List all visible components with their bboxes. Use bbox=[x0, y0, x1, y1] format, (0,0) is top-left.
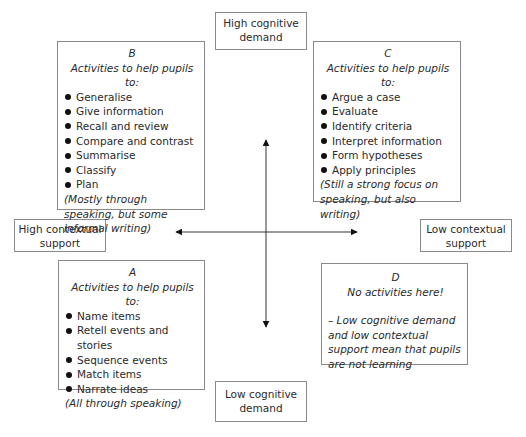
low-cognitive-demand-label: Low cognitive demand bbox=[215, 381, 307, 422]
list-item: Interpret information bbox=[320, 134, 456, 149]
list-item: Evaluate bbox=[320, 104, 456, 119]
list-item: Sequence events bbox=[65, 353, 200, 368]
quadrant-letter: D bbox=[328, 270, 463, 285]
quadrant-letter: A bbox=[65, 265, 200, 280]
activity-list: Name items Retell events and stories Seq… bbox=[65, 309, 200, 397]
high-cognitive-demand-label: High cognitive demand bbox=[215, 12, 307, 50]
quadrant-a: A Activities to help pupils to: Name ite… bbox=[58, 260, 205, 390]
quadrant-d: D No activities here! – Low cognitive de… bbox=[321, 263, 468, 365]
quadrant-note: – Low cognitive demand and low contextua… bbox=[328, 313, 463, 371]
quadrant-letter: C bbox=[320, 46, 456, 61]
list-item: Give information bbox=[64, 104, 200, 119]
quadrant-note: (Still a strong focus on speaking, but a… bbox=[320, 177, 456, 221]
list-item: Narrate ideas bbox=[65, 382, 200, 397]
quadrant-letter: B bbox=[64, 46, 200, 61]
list-item: Recall and review bbox=[64, 119, 200, 134]
list-item: Plan bbox=[64, 177, 200, 192]
list-item: Form hypotheses bbox=[320, 148, 456, 163]
quadrant-c: C Activities to help pupils to: Argue a … bbox=[313, 41, 461, 202]
list-item: Retell events and stories bbox=[65, 323, 200, 352]
list-item: Summarise bbox=[64, 148, 200, 163]
activity-list: Generalise Give information Recall and r… bbox=[64, 90, 200, 192]
low-contextual-support-label: Low contextual support bbox=[420, 219, 512, 252]
list-item: Apply principles bbox=[320, 163, 456, 178]
list-item: Identify criteria bbox=[320, 119, 456, 134]
activity-list: Argue a case Evaluate Identify criteria … bbox=[320, 90, 456, 178]
quadrant-note: (Mostly through speaking, but some infor… bbox=[64, 192, 200, 236]
quadrant-note: (All through speaking) bbox=[65, 396, 200, 411]
quadrant-heading: Activities to help pupils to: bbox=[65, 280, 200, 309]
list-item: Generalise bbox=[64, 90, 200, 105]
quadrant-heading: Activities to help pupils to: bbox=[64, 61, 200, 90]
list-item: Match items bbox=[65, 367, 200, 382]
list-item: Argue a case bbox=[320, 90, 456, 105]
quadrant-heading: No activities here! bbox=[328, 285, 463, 300]
quadrant-heading: Activities to help pupils to: bbox=[320, 61, 456, 90]
list-item: Name items bbox=[65, 309, 200, 324]
list-item: Compare and contrast bbox=[64, 134, 200, 149]
list-item: Classify bbox=[64, 163, 200, 178]
quadrant-b: B Activities to help pupils to: Generali… bbox=[57, 41, 205, 210]
